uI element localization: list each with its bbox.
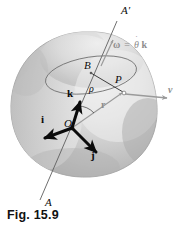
- theta-dot-accent: ˙: [135, 35, 138, 44]
- label-v: v: [168, 85, 172, 95]
- label-r: r: [101, 100, 105, 110]
- omega-k-symbol: k: [141, 39, 147, 50]
- label-unit-i: i: [41, 114, 44, 125]
- rigid-body-shape: [4, 28, 174, 188]
- label-axis-top: A′: [121, 5, 130, 16]
- label-rho: ρ: [89, 84, 94, 94]
- figure-illustration: [0, 0, 182, 228]
- label-point-b: B: [84, 60, 91, 71]
- label-unit-j: j: [91, 150, 95, 161]
- label-origin: O: [64, 118, 72, 129]
- omega-symbol: ω: [113, 39, 120, 50]
- omega-expression: ω = θ ˙ k: [113, 40, 147, 50]
- omega-equals: =: [123, 39, 132, 50]
- figure-15-9: A′ A O B P i j k ρ r v ω = θ ˙ k Fig. 15…: [0, 0, 182, 228]
- point-p-marker: [122, 91, 126, 95]
- figure-caption: Fig. 15.9: [7, 208, 59, 222]
- label-point-p: P: [115, 74, 122, 85]
- theta-dot-group: θ ˙: [134, 40, 139, 50]
- body-shading: [4, 28, 174, 188]
- label-axis-bottom: A: [45, 197, 52, 208]
- point-b-marker: [90, 72, 93, 75]
- label-unit-k: k: [67, 88, 73, 99]
